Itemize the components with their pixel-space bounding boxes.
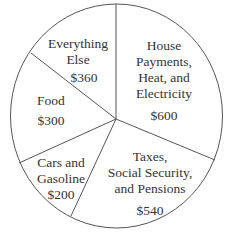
slice-value: $300 bbox=[38, 113, 65, 128]
slice-label: Gasoline bbox=[37, 171, 85, 186]
slice-label: Heat, and bbox=[138, 70, 190, 85]
slice-label: Food bbox=[37, 93, 65, 108]
slice-label: Taxes, bbox=[133, 149, 168, 164]
slice-label: Payments, bbox=[136, 54, 192, 69]
slice-value: $540 bbox=[137, 203, 164, 218]
slice-house-payments: House Payments, Heat, and Electricity $6… bbox=[136, 38, 192, 123]
slice-label: Else bbox=[66, 52, 89, 67]
slice-taxes: Taxes, Social Security, and Pensions $54… bbox=[108, 149, 193, 218]
slice-value: $360 bbox=[71, 70, 98, 85]
slice-label: Social Security, bbox=[108, 165, 193, 180]
pie-chart: House Payments, Heat, and Electricity $6… bbox=[0, 0, 230, 236]
slice-label: Cars and bbox=[37, 155, 85, 170]
slice-value: $200 bbox=[48, 187, 75, 202]
slice-food: Food $300 bbox=[37, 93, 65, 128]
slice-cars-gasoline: Cars and Gasoline $200 bbox=[37, 155, 85, 202]
slice-everything-else: Everything Else $360 bbox=[48, 36, 108, 85]
slice-label: and Pensions bbox=[115, 181, 186, 196]
slice-label: Electricity bbox=[136, 86, 192, 101]
slice-value: $600 bbox=[151, 108, 178, 123]
slice-label: House bbox=[147, 38, 182, 53]
slice-label: Everything bbox=[48, 36, 108, 51]
